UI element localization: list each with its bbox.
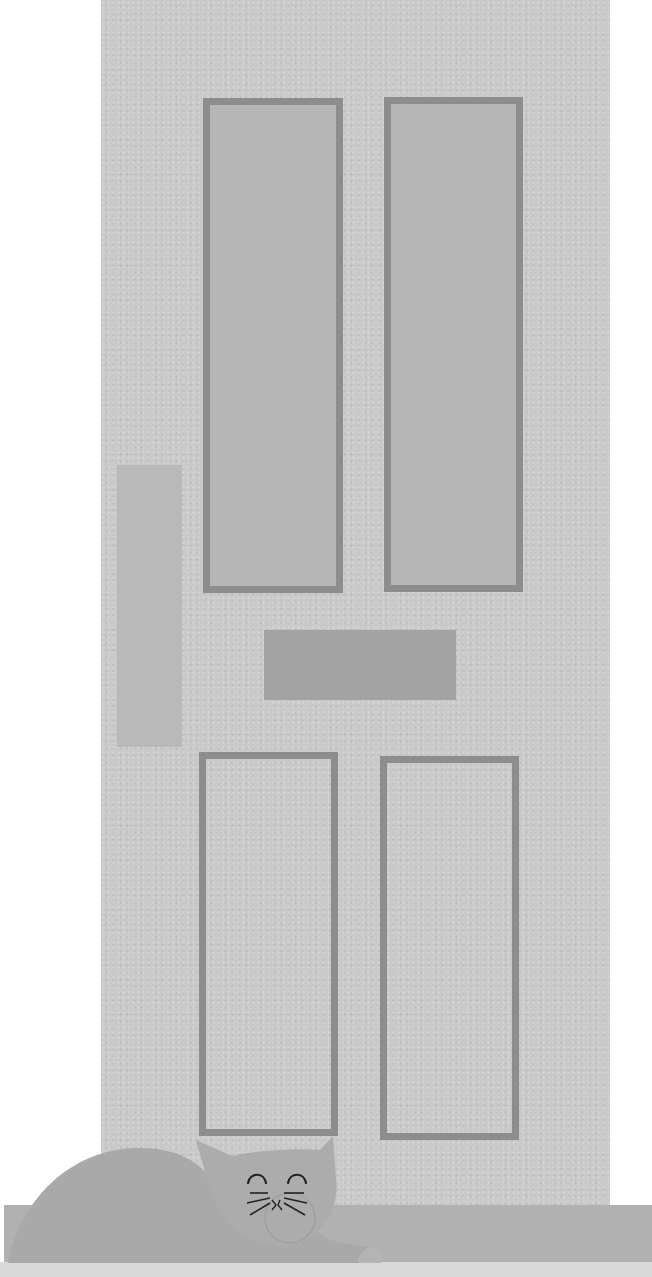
- door-panel-upper-right: [384, 97, 523, 592]
- sleeping-cat-icon: [0, 1130, 400, 1277]
- door-panel-upper-left: [203, 98, 343, 593]
- door-panel-lower-left: [199, 752, 338, 1136]
- sleeping-cat: [0, 1130, 400, 1277]
- letterbox-slot[interactable]: [264, 630, 456, 700]
- door-panel-lower-right: [380, 756, 519, 1140]
- door-handle-plate[interactable]: [117, 465, 182, 747]
